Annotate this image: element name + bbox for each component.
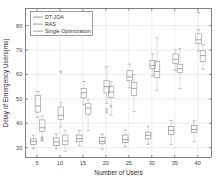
y-tick-label: 50 [16,96,22,102]
y-tick-label: 30 [16,145,22,151]
x-tick-label: 30 [149,160,155,166]
x-tick-label: 15 [80,160,86,166]
x-tick-label: 40 [195,160,201,166]
x-tick-label: 20 [103,160,109,166]
y-tick-label: 70 [16,47,22,53]
boxplot-figure: 304050607080510152025303540Number of Use… [0,0,224,189]
y-axis-title: Delay of Emergency Users(ms) [2,39,10,128]
legend[interactable]: DT-JOARASSingle Optimization [31,12,93,36]
x-tick-label: 5 [35,160,38,166]
legend-label-1[interactable]: DT-JOA [45,14,64,20]
x-tick-label: 35 [172,160,178,166]
legend-label-3[interactable]: Single Optimization [45,28,91,34]
x-tick-label: 25 [126,160,132,166]
chart-canvas: 304050607080510152025303540Number of Use… [0,0,224,189]
y-tick-label: 60 [16,71,22,77]
x-axis-title: Number of Users [94,169,142,176]
y-tick-label: 40 [16,120,22,126]
x-tick-label: 10 [57,160,63,166]
legend-label-2[interactable]: RAS [45,21,56,27]
y-tick-label: 80 [16,23,22,29]
